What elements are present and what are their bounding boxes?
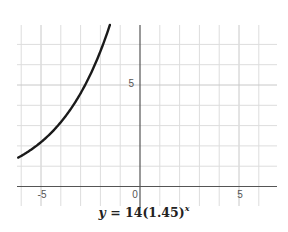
y-tick-label-5: 5	[128, 78, 134, 89]
equation-lhs: y	[99, 205, 106, 220]
equation-caption: y = 14(1.45)x	[0, 203, 288, 220]
x-tick-label-neg5: -5	[38, 189, 47, 200]
x-tick-label-5: 5	[237, 189, 243, 200]
equation-equals: =	[106, 205, 125, 220]
equation-base: (1.45)	[142, 205, 184, 220]
origin-label: 0	[132, 189, 138, 200]
equation-coefficient: 14	[125, 205, 142, 220]
graph-plot: -5 0 5 5	[0, 0, 288, 232]
equation-exponent: x	[185, 203, 190, 213]
grid-lines	[17, 25, 277, 206]
